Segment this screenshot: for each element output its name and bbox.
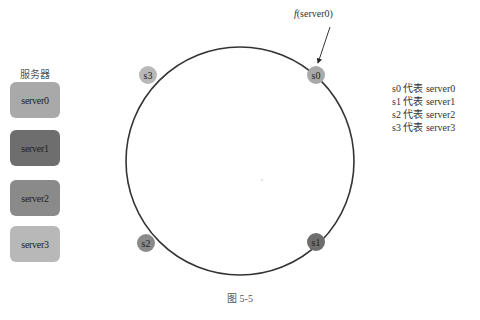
node-label: s0 bbox=[312, 70, 321, 81]
hash-ring-diagram: s0 s1 s2 s3 bbox=[0, 0, 480, 320]
legend-item: s3 代表 server3 bbox=[392, 121, 455, 134]
legend: s0 代表 server0 s1 代表 server1 s2 代表 server… bbox=[392, 82, 455, 134]
hash-function-arg: (server0) bbox=[297, 8, 333, 19]
node-label: s3 bbox=[144, 70, 153, 81]
legend-item: s2 代表 server2 bbox=[392, 108, 455, 121]
ring-node-s2: s2 bbox=[137, 234, 155, 252]
hash-arrow bbox=[318, 27, 330, 63]
figure-caption: 图 5-5 bbox=[0, 290, 480, 305]
legend-item: s1 代表 server1 bbox=[392, 95, 455, 108]
node-label: s1 bbox=[312, 237, 321, 248]
hash-function-label: f(server0) bbox=[294, 8, 333, 19]
ring-node-s3: s3 bbox=[139, 66, 157, 84]
ring-node-s1: s1 bbox=[307, 233, 325, 251]
legend-item: s0 代表 server0 bbox=[392, 82, 455, 95]
node-label: s2 bbox=[142, 238, 151, 249]
ring-node-s0: s0 bbox=[307, 66, 325, 84]
ring-center-dot bbox=[261, 179, 263, 181]
